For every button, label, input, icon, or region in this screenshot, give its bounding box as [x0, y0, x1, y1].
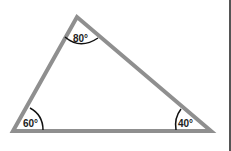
- angle-label-bottom-right: 40°: [178, 118, 193, 129]
- angle-label-top: 80°: [73, 33, 88, 44]
- angle-label-bottom-left: 60°: [23, 118, 38, 129]
- triangle-shape: [13, 17, 211, 131]
- right-border-line: [229, 0, 231, 151]
- triangle-diagram: 80° 60° 40°: [0, 0, 231, 151]
